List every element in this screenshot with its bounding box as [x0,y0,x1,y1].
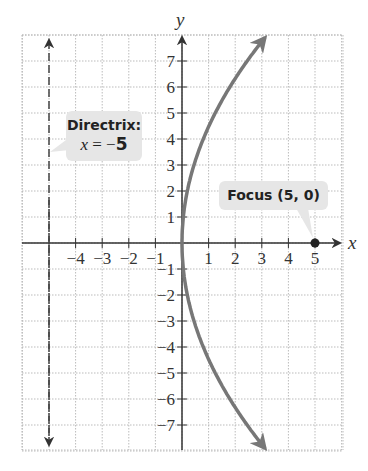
x-tick-label: 4 [284,249,293,268]
y-tick-label: −4 [157,338,176,357]
y-tick-label: 3 [167,156,176,175]
parabola-chart: xy−4−3−2−112345−7−6−5−4−3−2−11234567 Dir… [0,0,368,471]
focus-pointer [296,208,313,238]
focus-label: Focus (5, 0) [227,187,320,203]
y-tick-label: −6 [157,390,175,409]
y-tick-label: 5 [167,104,176,123]
y-tick-label: 2 [167,182,176,201]
y-tick-label: −2 [157,286,175,305]
x-tick-label: 5 [311,249,320,268]
y-tick-label: −7 [157,416,176,435]
x-tick-label: −4 [67,249,86,268]
focus-point [311,239,320,248]
x-tick-label: −2 [120,249,138,268]
focus-callout: Focus (5, 0) [219,181,328,210]
parabola-upper [182,38,265,243]
parabola-lower [182,243,265,448]
directrix-title: Directrix: [66,117,142,133]
y-tick-label: −5 [157,364,175,383]
x-tick-label: 3 [258,249,267,268]
y-tick-label: −1 [157,260,175,279]
y-tick-label: 7 [167,52,176,71]
x-axis-label: x [347,232,357,253]
y-axis-label: y [174,9,185,30]
directrix-equation: x = −5 [66,134,142,155]
x-tick-label: 1 [204,249,213,268]
x-tick-label: 2 [231,249,240,268]
y-tick-label: 4 [167,130,176,149]
y-tick-label: 6 [167,78,176,97]
y-tick-label: −3 [157,312,175,331]
x-tick-label: −3 [93,249,111,268]
directrix-callout: Directrix: x = −5 [66,111,142,161]
y-tick-label: 1 [167,208,176,227]
plot-area: xy−4−3−2−112345−7−6−5−4−3−2−11234567 [0,0,368,471]
